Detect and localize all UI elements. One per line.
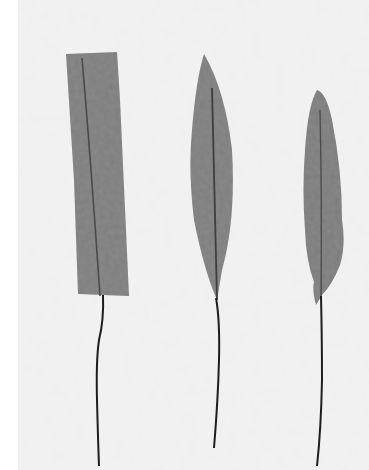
leaf-specimens-photo [0,0,369,470]
